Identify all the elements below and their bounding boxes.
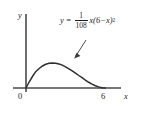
x-axis-label: x bbox=[124, 92, 128, 101]
x-tick-label-6: 6 bbox=[101, 92, 105, 101]
equation-lhs: y bbox=[60, 16, 64, 25]
equation-fraction: 1 108 bbox=[75, 12, 88, 29]
equation-exponent: 2 bbox=[113, 18, 116, 24]
fraction-numerator: 1 bbox=[78, 12, 84, 20]
equation-annotation: y = 1 108 x(6−x) 2 bbox=[60, 12, 115, 29]
annotation-arrowhead bbox=[74, 53, 80, 59]
y-axis-label: y bbox=[18, 11, 22, 20]
origin-tick-label: 0 bbox=[18, 92, 22, 101]
fraction-denominator: 108 bbox=[75, 21, 88, 29]
curve-y-equals-cubic bbox=[26, 63, 105, 88]
equation-tail: x(6−x) bbox=[89, 16, 112, 25]
equation-equals-sign: = bbox=[66, 16, 71, 25]
math-figure: y x 0 6 y = 1 108 x(6−x) 2 bbox=[0, 0, 144, 120]
